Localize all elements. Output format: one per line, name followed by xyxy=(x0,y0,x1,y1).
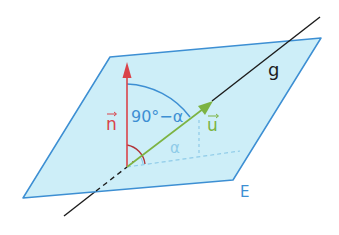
normal-vector-label: n xyxy=(106,112,117,134)
svg-text:u: u xyxy=(207,115,218,135)
line-plane-angle-diagram: n u 90°−α α g E xyxy=(0,0,339,235)
direction-vector-label: u xyxy=(207,114,219,135)
svg-text:n: n xyxy=(106,114,117,134)
line-g-label: g xyxy=(268,59,279,80)
complement-angle-label: 90°−α xyxy=(131,107,183,126)
plane-e-label: E xyxy=(240,183,249,201)
angle-alpha-label: α xyxy=(170,139,180,157)
